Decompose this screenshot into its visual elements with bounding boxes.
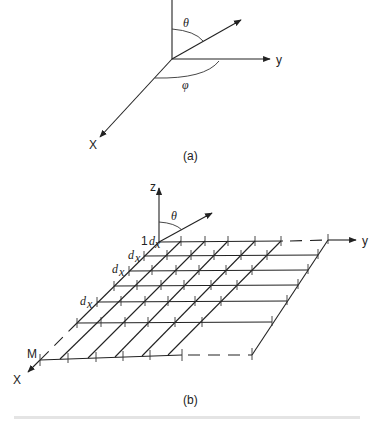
phi-label-a: φ [182,78,189,92]
grid-col-2 [88,241,205,358]
row-label-1-index: 1 [141,234,148,248]
row-label-2-sub: x [134,251,141,265]
row-label-5-d: d [80,294,87,308]
grid-row-5 [97,301,287,302]
figure-a-label: (a) [183,149,198,163]
direction-vector-b [159,213,212,242]
theta-arc-a [172,29,203,41]
grid-col-1 [60,241,181,359]
grid-col-right [252,240,328,355]
row-label-3-d: d [112,262,119,276]
theta-label-b: θ [171,209,177,223]
phi-arc-a [155,61,219,78]
z-axis-label-b: z [150,180,156,194]
row-label-1-sub: x [154,237,161,251]
caption-faded [14,416,360,419]
x-axis-label-a: X [89,138,97,152]
y-axis-label-a: y [276,53,282,67]
row-label-5-sub: x [86,297,93,311]
row-label-m: M [27,347,37,361]
grid-col-4 [142,241,255,356]
grid-row-4 [114,285,298,286]
theta-label-a: θ [183,16,189,30]
grid-row-1-dashed [290,240,325,241]
figure-b-label: (b) [183,393,198,407]
x-axis-label-b: X [13,373,21,387]
figure-canvas: θ φ y X (a) [0,0,374,421]
figure-b [28,188,356,372]
grid-row-2 [144,255,318,256]
x-axis-b [28,360,40,372]
x-axis-b-dashed [40,323,77,360]
grid-row-1 [159,241,283,242]
y-axis-label-b: y [362,234,368,248]
row-label-3-sub: x [118,265,125,279]
x-axis-a [100,59,172,137]
row-label-2-d: d [128,248,135,262]
grid-col-5 [168,241,281,355]
theta-arc-b [159,222,182,230]
grid-row-3 [129,270,308,271]
